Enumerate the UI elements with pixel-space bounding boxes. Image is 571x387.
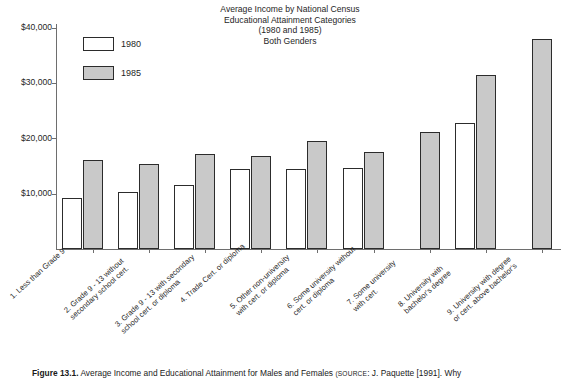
bar-1985-cat-3 (195, 154, 215, 249)
x-category-label-9-line-2: or cert. above bachelor's (451, 261, 519, 324)
chart-title-line-1: Average Income by National Census (150, 4, 430, 15)
y-axis-tick-20000 (52, 138, 57, 139)
bar-1985-cat-6 (364, 152, 384, 249)
x-category-label-5-line-1: 5. Other non-university (228, 253, 291, 311)
bar-1980-cat-1 (62, 198, 82, 249)
bar-1985-cat-2 (139, 164, 159, 249)
bar-1980-cat-2 (118, 192, 138, 249)
bar-1980-cat-6 (343, 168, 363, 249)
caption-text: Average Income and Educational Attainmen… (79, 368, 336, 378)
x-axis-category-labels: 1. Less than Grade 92. Grade 9 - 13 with… (0, 252, 571, 352)
x-category-label-8: 8. University withbachelor's degree (396, 262, 453, 316)
x-category-label-2: 2. Grade 9 - 13 withoutsecondary school … (62, 256, 132, 322)
plot-area: $10,000$20,000$30,000$40,000 (56, 24, 561, 250)
caption-figure-number: Figure 13.1. (32, 368, 79, 378)
y-axis-tick-10000 (52, 194, 57, 195)
caption-source-label: (SOURCE (335, 370, 367, 377)
figure-13-1: Average Income by National Census Educat… (0, 0, 571, 387)
bar-1985-cat-5 (307, 141, 327, 249)
x-category-label-9-line-1: 9. University with degree (445, 254, 513, 317)
bar-1985-cat-9 (532, 39, 552, 249)
caption-source-text: : J. Paquette [1991]. Why (367, 368, 461, 378)
bar-1985-cat-1 (83, 160, 103, 249)
y-axis-tick-label-40000: $40,000 (4, 22, 52, 32)
bar-1985-cat-8 (476, 75, 496, 249)
y-axis-tick-label-10000: $10,000 (4, 188, 52, 198)
x-category-label-2-line-1: 2. Grade 9 - 13 without (62, 256, 126, 315)
bar-1985-cat-4 (251, 156, 271, 249)
bar-1980-cat-5 (286, 169, 306, 249)
x-category-label-1: 1. Less than Grade 9 (8, 247, 67, 301)
y-axis-tick-label-30000: $30,000 (4, 77, 52, 87)
x-category-label-1-line-1: 1. Less than Grade 9 (8, 247, 67, 301)
bar-1980-cat-3 (174, 185, 194, 249)
y-axis-line (56, 24, 57, 250)
y-axis-tick-40000 (52, 28, 57, 29)
bar-1980-cat-4 (230, 169, 250, 249)
y-axis-tick-labels: $10,000$20,000$30,000$40,000 (4, 24, 52, 250)
bar-1985-cat-7 (420, 132, 440, 249)
figure-caption: Figure 13.1. Average Income and Educatio… (32, 368, 557, 379)
x-category-label-5: 5. Other non-universitywith cert. or dip… (228, 253, 298, 318)
x-category-label-9: 9. University with degreeor cert. above … (445, 254, 519, 324)
bar-1980-cat-8 (455, 123, 475, 249)
y-axis-tick-30000 (52, 83, 57, 84)
y-axis-tick-label-20000: $20,000 (4, 133, 52, 143)
